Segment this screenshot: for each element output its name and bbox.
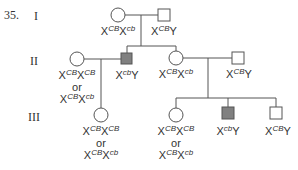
genotype-ii4: XCBY (226, 68, 252, 80)
female-symbol-ii3 (169, 51, 183, 65)
male-symbol-iii4 (270, 107, 282, 119)
genotype-ii1: XCBXCB or XCBXcb (59, 69, 96, 105)
genotype-i2: XCBY (151, 25, 177, 37)
female-symbol-iii2 (169, 108, 183, 122)
genotype-iii4: XCBY (265, 125, 291, 137)
male-symbol-ii4 (232, 52, 244, 64)
pedigree-lines (0, 0, 298, 170)
female-symbol-ii1 (70, 52, 84, 66)
female-symbol-i1 (111, 8, 125, 22)
affected-male-symbol-iii3 (222, 107, 234, 119)
affected-male-symbol-ii2 (121, 53, 132, 64)
genotype-iii2: XCBXCB or XCBXcb (158, 125, 195, 161)
female-symbol-iii1 (94, 108, 108, 122)
genotype-ii2: XcbY (115, 69, 138, 81)
genotype-ii3: XCBXcb (159, 68, 193, 80)
male-symbol-i2 (158, 9, 170, 21)
genotype-iii3: XcbY (216, 125, 239, 137)
genotype-i1: XCBXcb (101, 25, 135, 37)
genotype-iii1: XCBXCB or XCBXcb (83, 125, 120, 161)
